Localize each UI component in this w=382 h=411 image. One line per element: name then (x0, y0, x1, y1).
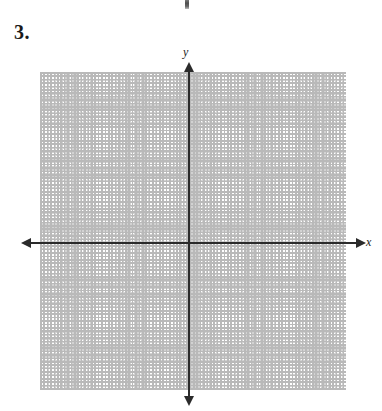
x-axis-left-arrow-icon (21, 238, 31, 248)
worksheet-page: 3. y x (0, 0, 382, 411)
coordinate-grid (40, 72, 346, 390)
x-axis-label: x (366, 236, 371, 248)
y-axis-up-arrow-icon (184, 62, 194, 72)
x-axis-right-arrow-icon (356, 238, 366, 248)
y-axis-down-arrow-icon (184, 396, 194, 406)
coordinate-graph: y x (0, 0, 382, 411)
x-axis-line (28, 242, 362, 244)
y-axis-line (188, 70, 190, 401)
y-axis-label: y (183, 46, 188, 58)
